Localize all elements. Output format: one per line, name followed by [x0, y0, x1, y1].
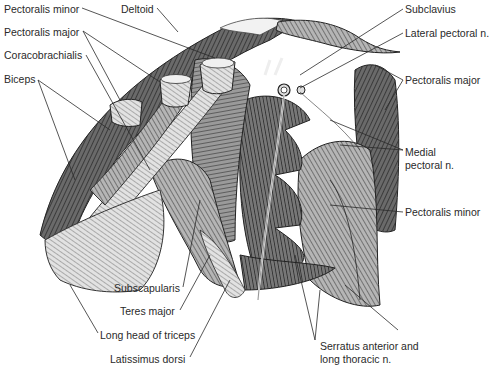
label-pectoralis-minor-right: Pectoralis minor	[405, 206, 480, 218]
label-serratus-anterior-line1: Serratus anterior and	[320, 340, 419, 352]
label-subscapularis: Subscapularis	[114, 282, 180, 294]
label-long-head-of-triceps: Long head of triceps	[100, 329, 195, 341]
label-lateral-pectoral-n: Lateral pectoral n.	[405, 27, 489, 39]
anatomy-figure: Pectoralis minor Deltoid Pectoralis majo…	[0, 0, 493, 366]
label-latissimus-dorsi: Latissimus dorsi	[110, 353, 185, 365]
label-subclavius: Subclavius	[405, 3, 456, 15]
label-coracobrachialis: Coracobrachialis	[4, 49, 82, 61]
label-medial-pectoral-n-line2: pectoral n.	[405, 159, 454, 171]
pectoralis-minor-shape	[298, 141, 380, 306]
label-pectoralis-major-left: Pectoralis major	[4, 26, 79, 38]
label-pectoralis-major-right: Pectoralis major	[405, 74, 480, 86]
label-biceps: Biceps	[4, 73, 36, 85]
subclavius-shape	[276, 20, 400, 53]
label-teres-major: Teres major	[120, 305, 175, 317]
label-medial-pectoral-n-line1: Medial	[405, 146, 436, 158]
label-deltoid: Deltoid	[121, 3, 154, 15]
label-pectoralis-minor-left: Pectoralis minor	[4, 3, 79, 15]
label-serratus-anterior-line2: long thoracic n.	[320, 353, 391, 365]
